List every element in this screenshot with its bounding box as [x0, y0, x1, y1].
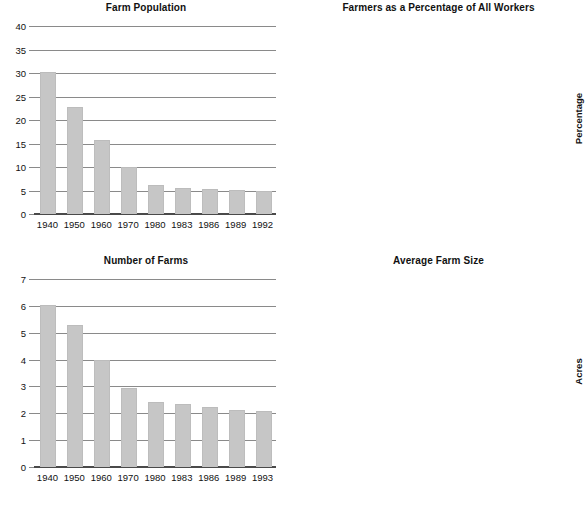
- x-tick-label: 1986: [198, 472, 219, 483]
- gridline: [34, 26, 276, 27]
- x-tick-label: 1960: [91, 219, 112, 230]
- gridline: [34, 73, 276, 74]
- y-tick-label: 5: [0, 185, 26, 196]
- bar: [256, 411, 272, 467]
- y-tick-mark: [29, 26, 34, 27]
- x-tick-label: 1993: [252, 472, 273, 483]
- y-tick-mark: [29, 167, 34, 168]
- bar: [121, 167, 137, 214]
- bar: [40, 305, 56, 467]
- x-tick-label: 1989: [225, 472, 246, 483]
- x-tick-label: 1980: [144, 472, 165, 483]
- x-tick-label: 1960: [91, 472, 112, 483]
- x-tick-label: 1983: [171, 472, 192, 483]
- bar: [229, 410, 245, 467]
- y-tick-mark: [29, 386, 34, 387]
- y-tick-label: 30: [0, 68, 26, 79]
- gridline: [34, 306, 276, 307]
- y-tick-mark: [29, 440, 34, 441]
- y-axis-title: Acres: [573, 342, 584, 402]
- plot-area: 01234567Millions194019501960197019801983…: [34, 279, 276, 467]
- y-tick-mark: [29, 360, 34, 361]
- x-tick-label: 1986: [198, 219, 219, 230]
- y-tick-mark: [29, 73, 34, 74]
- gridline: [34, 50, 276, 51]
- y-tick-mark: [29, 191, 34, 192]
- chart-title: Average Farm Size: [292, 255, 585, 266]
- y-tick-label: 7: [0, 274, 26, 285]
- chart-panel-farm-population: Farm Population 0510152025303540Millions…: [0, 0, 292, 253]
- chart-title: Farmers as a Percentage of All Workers: [292, 2, 585, 13]
- x-tick-label: 1980: [144, 219, 165, 230]
- y-tick-mark: [29, 413, 34, 414]
- y-tick-label: 25: [0, 91, 26, 102]
- bar: [202, 407, 218, 467]
- y-axis-title: Percentage: [573, 89, 584, 149]
- y-tick-label: 2: [0, 408, 26, 419]
- y-tick-label: 0: [0, 209, 26, 220]
- y-tick-label: 10: [0, 162, 26, 173]
- chart-title: Number of Farms: [0, 255, 292, 266]
- y-tick-label: 5: [0, 327, 26, 338]
- bar: [67, 107, 83, 214]
- x-tick-label: 1970: [118, 472, 139, 483]
- y-tick-label: 3: [0, 381, 26, 392]
- x-tick-label: 1940: [37, 219, 58, 230]
- y-tick-mark: [29, 97, 34, 98]
- plot-area: 0510152025303540Millions1940195019601970…: [34, 26, 276, 214]
- y-tick-mark: [29, 120, 34, 121]
- y-tick-label: 35: [0, 44, 26, 55]
- gridline: [34, 279, 276, 280]
- y-tick-mark: [29, 214, 34, 215]
- chart-panel-average-farm-size: Average Farm Size 0100200300400500Acres1…: [292, 253, 585, 506]
- bar: [148, 402, 164, 467]
- x-tick-label: 1992: [252, 219, 273, 230]
- bar: [67, 325, 83, 467]
- y-tick-label: 15: [0, 138, 26, 149]
- bar: [94, 140, 110, 214]
- chart-panel-number-of-farms: Number of Farms 01234567Millions19401950…: [0, 253, 292, 506]
- bar: [175, 188, 191, 214]
- x-tick-label: 1950: [64, 472, 85, 483]
- x-tick-label: 1989: [225, 219, 246, 230]
- gridline: [34, 97, 276, 98]
- bar: [94, 360, 110, 467]
- x-tick-label: 1970: [118, 219, 139, 230]
- chart-panel-farmers-percentage: Farmers as a Percentage of All Workers 0…: [292, 0, 585, 253]
- y-tick-mark: [29, 467, 34, 468]
- y-tick-label: 20: [0, 115, 26, 126]
- chart-title: Farm Population: [0, 2, 292, 13]
- bar: [202, 189, 218, 214]
- figure-sheet: Farm Population 0510152025303540Millions…: [0, 0, 585, 506]
- x-tick-label: 1983: [171, 219, 192, 230]
- y-tick-label: 40: [0, 21, 26, 32]
- y-tick-label: 0: [0, 462, 26, 473]
- y-tick-mark: [29, 306, 34, 307]
- bar: [121, 388, 137, 467]
- x-tick-label: 1950: [64, 219, 85, 230]
- y-tick-label: 6: [0, 300, 26, 311]
- bar: [148, 185, 164, 214]
- y-tick-label: 1: [0, 435, 26, 446]
- y-tick-mark: [29, 279, 34, 280]
- bar: [256, 191, 272, 214]
- bar: [40, 72, 56, 214]
- bar: [175, 404, 191, 467]
- y-tick-label: 4: [0, 354, 26, 365]
- y-tick-mark: [29, 144, 34, 145]
- x-tick-label: 1940: [37, 472, 58, 483]
- bar: [229, 190, 245, 214]
- y-tick-mark: [29, 333, 34, 334]
- y-tick-mark: [29, 50, 34, 51]
